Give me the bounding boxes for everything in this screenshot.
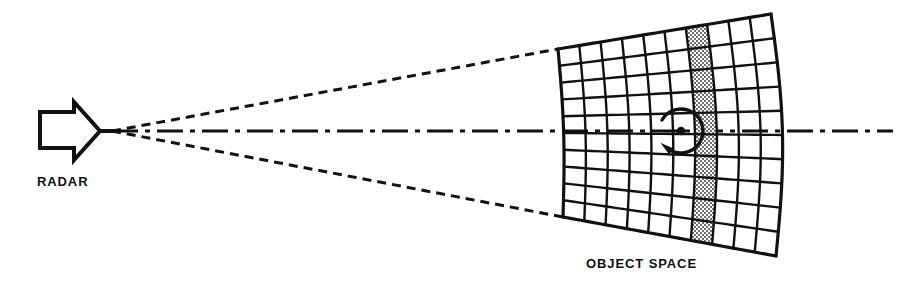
object-space-label: OBJECT SPACE [586,256,697,271]
radar-label: RADAR [37,174,88,189]
diagram-canvas: RADAR OBJECT SPACE [0,0,900,301]
radar-object-space-figure: RADAR OBJECT SPACE [0,0,900,301]
horn-antenna [40,102,113,160]
object-space-grid [558,14,783,256]
radar-beam [112,49,563,217]
grid-angle-line [564,133,783,135]
